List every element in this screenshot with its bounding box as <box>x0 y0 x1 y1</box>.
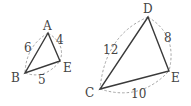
vertex-label-a: A <box>42 19 52 33</box>
vertex-label-e: E <box>63 61 72 75</box>
triangle-abe: A B E 6 4 5 <box>11 19 72 87</box>
side-length-ae: 4 <box>56 33 64 47</box>
side-length-ce: 10 <box>131 87 146 101</box>
triangle-cde: D C E 12 8 10 <box>85 2 180 101</box>
side-length-de: 8 <box>164 31 172 45</box>
side-length-ab: 6 <box>24 41 32 55</box>
vertex-label-d: D <box>143 2 153 16</box>
vertex-label-e2: E <box>171 71 180 85</box>
side-length-be: 5 <box>38 73 46 87</box>
side-length-cd: 12 <box>103 43 118 57</box>
vertex-label-c: C <box>85 86 94 100</box>
vertex-label-b: B <box>11 71 20 85</box>
similar-triangles-diagram: A B E 6 4 5 D C E 12 8 10 <box>0 0 191 106</box>
